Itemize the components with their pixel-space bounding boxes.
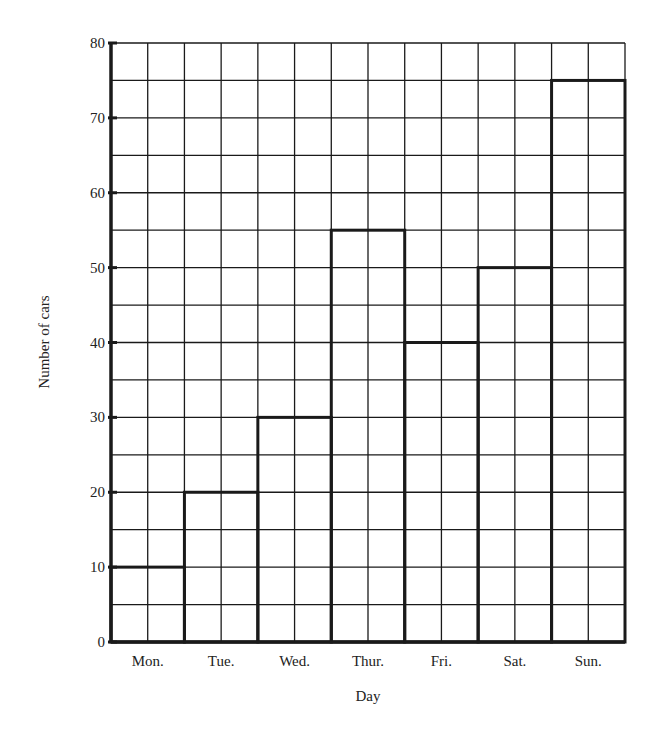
y-tick-label: 60 <box>90 185 105 201</box>
y-tick-label: 0 <box>98 634 106 650</box>
x-tick-label: Sat. <box>503 653 526 669</box>
x-axis-labels: Mon.Tue.Wed.Thur.Fri.Sat.Sun. <box>132 653 602 669</box>
y-axis-ticks: 01020304050607080 <box>90 35 117 650</box>
y-tick-label: 70 <box>90 110 105 126</box>
x-tick-label: Thur. <box>352 653 384 669</box>
y-axis-title: Number of cars <box>36 295 52 388</box>
y-tick-label: 50 <box>90 260 105 276</box>
y-tick-label: 80 <box>90 35 105 51</box>
y-tick-label: 40 <box>90 335 105 351</box>
x-tick-label: Mon. <box>132 653 164 669</box>
grid <box>111 43 625 642</box>
y-tick-label: 20 <box>90 484 105 500</box>
bar-chart: 01020304050607080 Mon.Tue.Wed.Thur.Fri.S… <box>0 0 658 731</box>
x-tick-label: Tue. <box>208 653 235 669</box>
x-axis-title: Day <box>356 688 381 704</box>
y-tick-label: 10 <box>90 559 105 575</box>
x-tick-label: Wed. <box>279 653 310 669</box>
x-tick-label: Fri. <box>431 653 452 669</box>
y-tick-label: 30 <box>90 409 105 425</box>
x-tick-label: Sun. <box>575 653 602 669</box>
